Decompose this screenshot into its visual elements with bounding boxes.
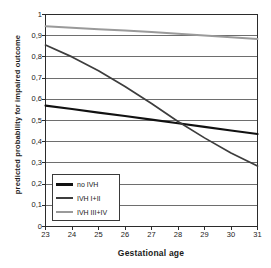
x-tick-label: 28	[166, 231, 190, 239]
x-axis-title: Gestational age	[45, 248, 257, 258]
chart-figure: predicted probability for impaired outco…	[0, 0, 271, 268]
legend-color-swatch	[56, 183, 73, 186]
x-tick-label: 26	[113, 231, 137, 239]
x-tick-label: 29	[193, 231, 217, 239]
series-line	[46, 26, 258, 39]
legend-item: IVH I+II	[56, 191, 116, 205]
x-tick-label: 31	[246, 231, 270, 239]
x-tick-label: 23	[34, 231, 58, 239]
legend-color-swatch	[56, 211, 73, 213]
x-tick-label: 27	[140, 231, 164, 239]
series-line	[46, 106, 258, 134]
chart-legend: no IVHIVH I+IIIVH III+IV	[52, 174, 120, 221]
legend-item-label: IVH I+II	[77, 195, 101, 202]
legend-item-label: no IVH	[77, 181, 98, 188]
legend-item-label: IVH III+IV	[77, 209, 107, 216]
x-tick-label: 25	[87, 231, 111, 239]
legend-item: no IVH	[56, 177, 116, 191]
x-tick-label: 24	[60, 231, 84, 239]
plot-area	[0, 0, 271, 268]
x-tick-label: 30	[219, 231, 243, 239]
legend-color-swatch	[56, 197, 73, 199]
series-line	[46, 45, 258, 166]
legend-item: IVH III+IV	[56, 205, 116, 219]
x-axis-tick-labels: 232425262728293031	[0, 231, 271, 245]
